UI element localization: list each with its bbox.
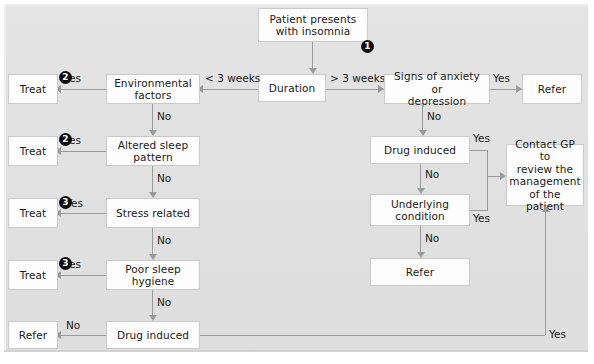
marker-two-a: 2 <box>59 71 72 84</box>
edge-bottom-yes-v <box>545 212 546 335</box>
node-treat-4: Treat <box>8 260 58 290</box>
node-treat-1: Treat <box>8 74 58 104</box>
node-underlying-line2: condition <box>388 210 452 223</box>
edge-stress-to-treat3 <box>58 213 106 214</box>
node-patient-presents-line1: Patient presents <box>267 13 360 26</box>
node-patient-presents: Patient presents with insomnia <box>258 8 368 42</box>
edge-drug-right-yes-v <box>487 150 488 176</box>
edge-underlying-yes-v <box>487 176 488 211</box>
node-treat-4-label: Treat <box>17 269 49 282</box>
node-treat-2-label: Treat <box>17 145 49 158</box>
node-drug-induced-left-label: Drug induced <box>114 329 192 342</box>
label-gt-3-weeks: > 3 weeks <box>330 72 385 84</box>
edge-altered-to-treat2 <box>58 151 106 152</box>
edge-hygiene-to-treat4 <box>58 275 106 276</box>
node-environmental-line1: Environmental <box>111 77 195 90</box>
label-no-drug-right: No <box>425 168 439 180</box>
node-contact-gp-line1: Contact GP to <box>506 138 583 163</box>
label-no-stress: No <box>157 234 171 246</box>
node-refer-right-label: Refer <box>403 266 437 279</box>
node-treat-2: Treat <box>8 136 58 166</box>
label-yes-anxiety: Yes <box>493 72 510 84</box>
node-stress-label: Stress related <box>113 207 193 220</box>
node-contact-gp-line2: review the <box>506 163 583 176</box>
node-treat-3: Treat <box>8 198 58 228</box>
flowchart-canvas: Patient presents with insomnia 1 Duratio… <box>0 0 594 364</box>
label-no-environmental: No <box>157 110 171 122</box>
panel-bottom-edge <box>4 350 588 352</box>
label-yes-drug-right: Yes <box>473 132 490 144</box>
node-refer-top-right: Refer <box>522 74 582 104</box>
node-anxiety-line2: depression <box>388 95 486 108</box>
node-poor-hygiene-line1: Poor sleep <box>122 263 183 276</box>
node-contact-gp-line3: management <box>506 175 583 188</box>
node-refer-left-label: Refer <box>16 329 50 342</box>
label-no-drug-left: No <box>66 319 80 331</box>
node-anxiety-line1: Signs of anxiety or <box>388 70 486 95</box>
node-duration-label: Duration <box>266 82 318 95</box>
label-no-hygiene: No <box>157 296 171 308</box>
node-treat-1-label: Treat <box>17 83 49 96</box>
panel-left-edge <box>4 4 6 352</box>
node-duration: Duration <box>258 74 326 102</box>
node-signs-of-anxiety: Signs of anxiety or depression <box>384 74 490 104</box>
node-underlying-line1: Underlying <box>388 198 452 211</box>
node-environmental-factors: Environmental factors <box>106 74 200 104</box>
arrow-bottom-yes-to-contact-gp <box>542 206 550 212</box>
marker-one: 1 <box>361 40 374 53</box>
edge-duration-to-anxiety <box>326 89 384 90</box>
node-altered-sleep-line1: Altered sleep <box>115 139 192 152</box>
node-underlying-condition: Underlying condition <box>370 194 470 226</box>
label-no-altered: No <box>157 172 171 184</box>
marker-three-a: 3 <box>59 196 72 209</box>
node-altered-sleep-line2: pattern <box>115 151 192 164</box>
label-no-anxiety: No <box>427 110 441 122</box>
edge-drug-right-yes-h <box>470 150 487 151</box>
marker-three-b: 3 <box>59 257 72 270</box>
node-environmental-line2: factors <box>111 89 195 102</box>
node-refer-top-right-label: Refer <box>535 83 569 96</box>
edge-underlying-yes-h <box>470 210 487 211</box>
panel-top-edge <box>4 4 588 6</box>
node-drug-induced-right-label: Drug induced <box>381 144 459 157</box>
label-yes-bottom: Yes <box>549 328 566 340</box>
label-no-underlying: No <box>425 232 439 244</box>
marker-two-b: 2 <box>59 133 72 146</box>
node-refer-left: Refer <box>8 321 58 349</box>
node-patient-presents-line2: with insomnia <box>267 25 360 38</box>
node-refer-right: Refer <box>370 258 470 286</box>
node-drug-induced-right: Drug induced <box>370 136 470 164</box>
edge-bottom-yes-h <box>200 335 545 336</box>
node-treat-3-label: Treat <box>17 207 49 220</box>
node-drug-induced-left: Drug induced <box>106 321 200 349</box>
node-stress-related: Stress related <box>106 198 200 228</box>
node-poor-sleep-hygiene: Poor sleep hygiene <box>106 260 200 290</box>
edge-drug-left-no <box>58 335 106 336</box>
edge-duration-to-environmental <box>200 89 258 90</box>
label-lt-3-weeks: < 3 weeks <box>205 72 260 84</box>
node-altered-sleep-pattern: Altered sleep pattern <box>106 136 200 166</box>
node-poor-hygiene-line2: hygiene <box>122 275 183 288</box>
edge-environmental-to-treat1 <box>58 89 106 90</box>
node-contact-gp: Contact GP to review the management of t… <box>506 144 584 206</box>
label-yes-underlying: Yes <box>473 212 490 224</box>
